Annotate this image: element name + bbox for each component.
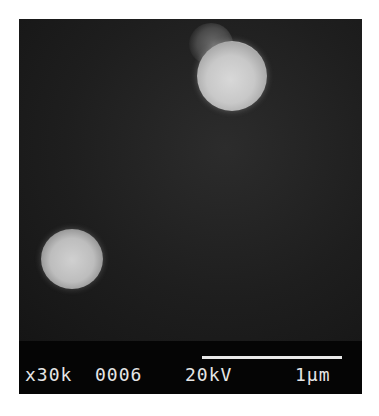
sem-image-frame: x30k 0006 20kV 1μm [19, 19, 362, 394]
scale-label: 1μm [295, 364, 331, 385]
sem-data-bar: x30k 0006 20kV 1μm [19, 341, 362, 394]
image-number-label: 0006 [95, 364, 142, 385]
magnification-label: x30k [25, 364, 72, 385]
scale-bar [202, 356, 342, 359]
particle-lower-left [41, 229, 103, 289]
voltage-label: 20kV [185, 364, 232, 385]
particle-upper-right [197, 41, 267, 111]
micrograph-field [19, 19, 362, 341]
